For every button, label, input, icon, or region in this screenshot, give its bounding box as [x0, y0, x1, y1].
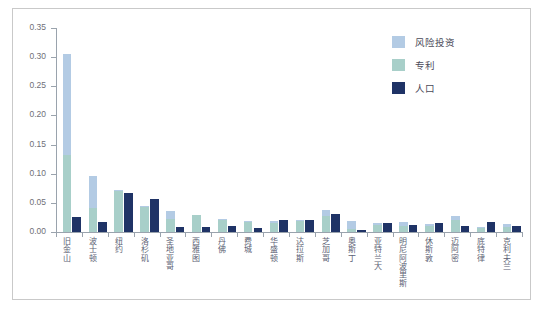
bar-patent — [322, 216, 331, 232]
bar-population — [202, 227, 211, 232]
chart-legend: 风险投资专利人口 — [392, 36, 455, 94]
bar-patent — [399, 226, 408, 232]
x-axis-category-label: 丹佛 — [217, 238, 228, 255]
bar-patent — [270, 223, 279, 232]
x-axis-category-label: 迈阿密 — [450, 238, 461, 263]
x-axis-category-label: 纽约 — [113, 238, 124, 255]
bar-patent — [89, 208, 98, 232]
legend-label: 风险投资 — [415, 35, 455, 49]
bar-patent — [503, 227, 512, 232]
bar-patent — [166, 219, 175, 232]
chart-figure: 0.000.050.100.150.200.250.300.35 旧金山波士顿纽… — [0, 0, 545, 314]
bar-population — [176, 227, 185, 232]
bar-population — [150, 199, 159, 232]
bar-population — [254, 228, 263, 232]
legend-swatch-icon — [392, 36, 405, 48]
bar-population — [72, 217, 81, 232]
bar-population — [461, 226, 470, 232]
legend-item[interactable]: 专利 — [392, 59, 455, 71]
bar-patent — [373, 225, 382, 232]
legend-item[interactable]: 风险投资 — [392, 36, 455, 48]
bar-population — [435, 223, 444, 232]
x-axis-category-label: 休斯敦 — [424, 238, 435, 263]
bar-population — [357, 230, 366, 232]
bar-patent — [218, 220, 227, 232]
x-axis-category-label: 费城 — [243, 238, 254, 255]
x-axis-category-label: 达拉斯 — [294, 238, 305, 263]
bar-population — [228, 226, 237, 232]
x-axis-category-label: 克利夫兰 — [501, 238, 512, 271]
bar-population — [512, 226, 521, 232]
x-axis-category-label: 波士顿 — [87, 238, 98, 263]
x-axis-category-label: 华盛顿 — [268, 238, 279, 263]
x-axis-category-label: 洛杉矶 — [139, 238, 150, 263]
bar-population — [383, 223, 392, 232]
x-axis-category-label: 旧金山 — [61, 238, 72, 263]
x-axis-category-label: 西雅图 — [191, 238, 202, 263]
legend-swatch-icon — [392, 59, 405, 71]
bar-population — [279, 220, 288, 232]
legend-label: 人口 — [415, 81, 435, 95]
legend-label: 专利 — [415, 58, 435, 72]
bar-patent — [140, 207, 149, 232]
bar-population — [331, 214, 340, 232]
bar-groups — [0, 0, 545, 314]
legend-swatch-icon — [392, 82, 405, 94]
bar-patent — [477, 228, 486, 232]
bar-patent — [114, 191, 123, 232]
bar-population — [124, 193, 133, 232]
bar-patent — [451, 220, 460, 232]
x-axis-category-label: 芝加哥 — [320, 238, 331, 263]
bar-population — [487, 222, 496, 233]
bar-patent — [244, 222, 253, 233]
x-axis-category-label: 奥斯丁 — [346, 238, 357, 263]
bar-population — [98, 222, 107, 232]
bar-patent — [192, 215, 201, 232]
bar-population — [409, 225, 418, 232]
x-axis-category-label: 明尼阿波里斯 — [398, 238, 409, 288]
x-axis-category-label: 圣地亚哥 — [165, 238, 176, 271]
x-axis-category-label: 底特律 — [476, 238, 487, 263]
bar-patent — [296, 221, 305, 232]
bar-patent — [425, 226, 434, 232]
bar-population — [305, 220, 314, 232]
x-axis-category-label: 亚特兰大 — [372, 238, 383, 271]
legend-item[interactable]: 人口 — [392, 82, 455, 94]
bar-patent — [347, 229, 356, 233]
bar-patent — [63, 155, 72, 232]
